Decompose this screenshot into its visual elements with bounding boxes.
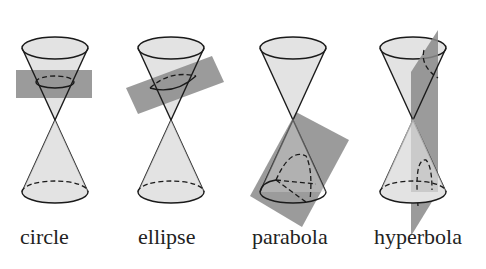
ellipse-panel <box>126 37 224 203</box>
circle-panel <box>16 37 92 203</box>
parabola-panel <box>250 37 349 227</box>
hyperbola-panel <box>380 30 446 236</box>
label-circle: circle <box>20 224 69 250</box>
top-rim <box>22 37 88 59</box>
label-hyperbola: hyperbola <box>374 224 462 250</box>
cutting-plane <box>16 70 92 98</box>
label-parabola: parabola <box>252 224 328 250</box>
label-ellipse: ellipse <box>138 224 195 250</box>
